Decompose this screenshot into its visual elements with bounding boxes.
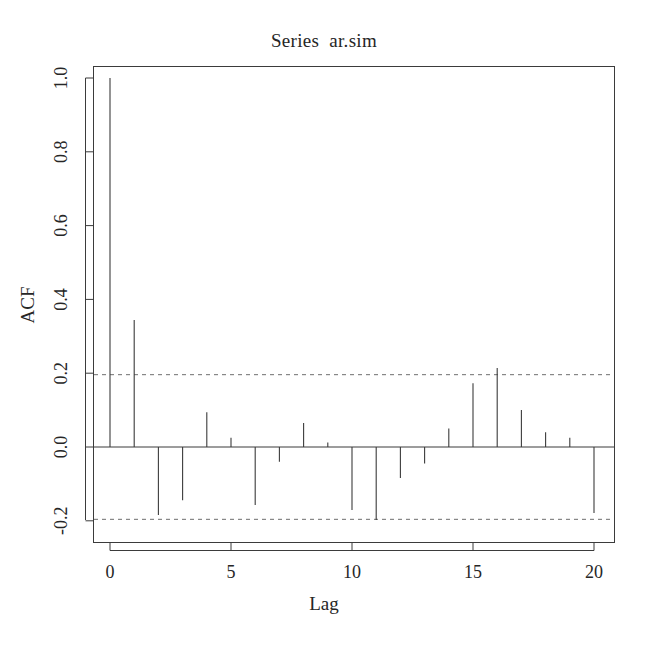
acf-chart: -0.20.00.20.40.60.81.005101520 Lag ACF (0, 0, 648, 655)
x-axis-tick-label: 20 (585, 562, 603, 582)
acf-plot-page: Series ar.sim -0.20.00.20.40.60.81.00510… (0, 0, 648, 655)
x-axis-tick-label: 0 (106, 562, 115, 582)
y-axis-tick-label: 0.4 (51, 288, 71, 311)
y-axis-tick-label: -0.2 (51, 507, 71, 536)
y-axis-label: ACF (17, 287, 38, 324)
plot-frame (94, 67, 615, 543)
x-axis-label: Lag (309, 593, 339, 614)
chart-layer: -0.20.00.20.40.60.81.005101520 (51, 67, 614, 582)
x-axis-tick-label: 10 (343, 562, 361, 582)
y-axis-tick-label: 0.2 (51, 362, 71, 385)
x-axis-tick-label: 15 (464, 562, 482, 582)
y-axis-tick-label: 0.6 (51, 214, 71, 237)
y-axis-tick-label: 1.0 (51, 67, 71, 90)
x-axis-tick-label: 5 (227, 562, 236, 582)
y-axis-tick-label: 0.0 (51, 436, 71, 459)
y-axis-tick-label: 0.8 (51, 141, 71, 164)
